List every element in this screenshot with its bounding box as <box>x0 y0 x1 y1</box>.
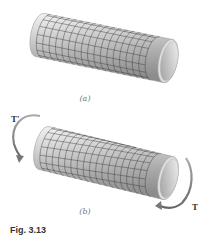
panel-label-a: (a) <box>70 94 100 103</box>
torque-label-right: T <box>192 202 198 212</box>
panel-label-b: (b) <box>70 207 100 216</box>
figure-canvas <box>0 0 204 238</box>
shaft-under-torsion <box>34 127 183 202</box>
figure-caption: Fig. 3.13 <box>10 225 46 235</box>
shaft-body <box>34 127 179 200</box>
torque-label-left: T' <box>11 114 20 124</box>
shaft-unloaded <box>30 13 181 84</box>
